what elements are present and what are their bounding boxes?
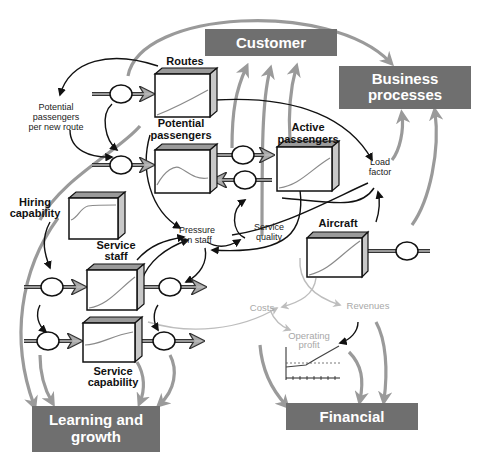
valve-aircraft-acquire xyxy=(396,242,418,260)
valve-lose-passengers xyxy=(234,171,256,189)
perspective-business-processes: Business processes xyxy=(339,66,471,109)
var-potential-per-route: Potential passengers per new route xyxy=(28,102,83,132)
var-revenues: Revenues xyxy=(347,300,390,311)
svg-text:passengers: passengers xyxy=(33,112,80,122)
svg-text:Load: Load xyxy=(370,157,390,167)
valve-potential-inflow xyxy=(110,156,132,174)
svg-text:Service: Service xyxy=(254,222,284,232)
valve-win-passengers xyxy=(232,146,254,164)
strategy-map-diagram: Routes Potential passengers Active passe… xyxy=(0,0,487,465)
stock-routes-label: Routes xyxy=(166,55,203,67)
svg-text:Potential: Potential xyxy=(38,102,73,112)
operating-profit-sparkline xyxy=(286,346,340,380)
svg-text:Learning and: Learning and xyxy=(49,411,143,428)
perspective-financial: Financial xyxy=(286,403,418,430)
valve-hire-staff xyxy=(41,278,63,296)
stock-staff-label-2: staff xyxy=(104,250,128,262)
svg-text:factor: factor xyxy=(369,167,392,177)
valve-capability-gain xyxy=(37,332,59,350)
stock-active-passengers: Active passengers xyxy=(277,121,339,191)
stock-capability-label-2: capability xyxy=(88,376,140,388)
svg-text:processes: processes xyxy=(368,86,442,103)
svg-text:growth: growth xyxy=(71,428,121,445)
stock-active-label-1: Active xyxy=(291,121,324,133)
svg-text:quality: quality xyxy=(256,232,283,242)
stock-hiring-capability: Hiring capability xyxy=(10,192,125,239)
svg-text:Customer: Customer xyxy=(236,34,306,51)
valve-capability-loss xyxy=(153,332,175,350)
svg-text:Financial: Financial xyxy=(319,408,384,425)
perspective-customer: Customer xyxy=(205,29,337,56)
stock-service-staff: Service staff xyxy=(87,239,144,310)
stock-potential-passengers: Potential passengers xyxy=(150,117,217,193)
stock-potential-label-1: Potential xyxy=(158,117,204,129)
var-operating-profit-2: profit xyxy=(298,339,319,350)
stock-service-capability: Service capability xyxy=(83,317,142,388)
stock-hiring-label-2: capability xyxy=(10,207,62,219)
stock-active-label-2: passengers xyxy=(277,133,338,145)
var-pressure-on-staff: Pressure on staff xyxy=(179,225,215,245)
var-costs: Costs xyxy=(250,302,275,313)
svg-text:Business: Business xyxy=(372,70,439,87)
stock-aircraft: Aircraft xyxy=(307,217,368,277)
svg-text:per new route: per new route xyxy=(28,122,83,132)
valve-staff-leave xyxy=(159,278,181,296)
stock-potential-label-2: passengers xyxy=(150,129,211,141)
stock-routes: Routes xyxy=(155,55,217,117)
perspective-learning-growth: Learning and growth xyxy=(32,406,160,452)
stock-aircraft-label: Aircraft xyxy=(318,217,357,229)
svg-text:on staff: on staff xyxy=(182,235,212,245)
var-service-quality: Service quality xyxy=(254,222,284,242)
var-load-factor: Load factor xyxy=(369,157,392,177)
valve-routes-inflow xyxy=(110,85,132,103)
svg-text:Pressure: Pressure xyxy=(179,225,215,235)
revenues-to-profit-link xyxy=(340,322,358,343)
